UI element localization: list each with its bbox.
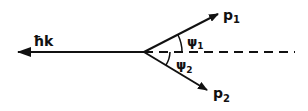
p2-label: p2 xyxy=(213,85,230,104)
vector-p2: p2 xyxy=(144,52,230,104)
p1-label: p1 xyxy=(223,7,240,25)
hk-label: ħk xyxy=(33,33,54,49)
psi1-label: ψ1 xyxy=(187,34,204,51)
momentum-diagram: ħk p1 p2 ψ1 ψ2 xyxy=(0,0,308,111)
psi2-arc xyxy=(166,52,170,65)
vector-hk: ħk xyxy=(18,33,144,52)
psi1-arc xyxy=(178,35,182,52)
